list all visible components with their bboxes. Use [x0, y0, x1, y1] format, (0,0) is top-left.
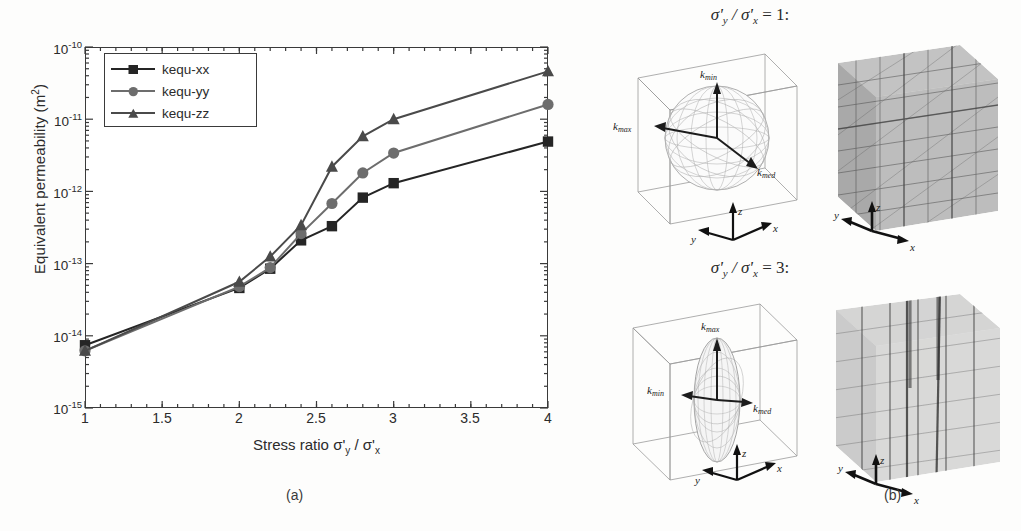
axis-label-x: x [909, 241, 915, 253]
y-tick: 10-13 [36, 255, 82, 273]
x-tick: 1.5 [152, 410, 171, 426]
panel-a-chart: Equivalent permeability (m2) 10-10 10-11… [0, 0, 575, 531]
permeability-ellipsoid-isotropic: kmin kmax kmed z y x [605, 40, 820, 275]
axis-label-y: y [694, 474, 700, 486]
data-point-marker [388, 147, 399, 158]
axis-label-z: z [741, 447, 747, 459]
legend-marker-square-icon [111, 62, 155, 76]
axis-label-z: z [875, 201, 881, 213]
series-line [85, 104, 548, 350]
data-point-marker [295, 219, 307, 230]
legend-marker-circle-icon [111, 84, 155, 98]
axis-label-x: x [772, 222, 778, 234]
permeability-ellipsoid-anisotropic: kmax kmin kmed z y x [605, 292, 820, 527]
figure-root: Equivalent permeability (m2) 10-10 10-11… [0, 0, 1021, 531]
data-point-marker [327, 221, 337, 231]
x-tick: 3 [389, 410, 397, 426]
data-point-marker [265, 262, 276, 273]
chart-legend: kequ-xx kequ-yy kequ-zz [104, 53, 257, 127]
label-kmax: kmax [613, 120, 632, 134]
data-point-marker [542, 99, 553, 110]
label-kmin: kmin [700, 68, 717, 82]
label-kmed: kmed [753, 402, 772, 416]
x-tick: 1 [81, 410, 89, 426]
series-line [85, 142, 548, 346]
label-kmax: kmax [701, 320, 720, 334]
label-kmed: kmed [757, 166, 776, 180]
network-fracture-planes [834, 288, 1002, 504]
y-tick: 10-12 [36, 183, 82, 201]
y-tick: 10-10 [36, 39, 82, 57]
subfigure-caption-a: (a) [286, 487, 303, 503]
y-tick: 10-15 [36, 399, 82, 417]
y-axis-ticks: 10-10 10-11 10-12 10-13 10-14 10-15 [30, 0, 82, 531]
x-axis-ticks: 1 1.5 2 2.5 3 3.5 4 [85, 410, 548, 434]
legend-label: kequ-zz [162, 106, 209, 121]
data-point-marker [543, 136, 553, 146]
x-axis-label: Stress ratio σ'y / σ'x [85, 436, 548, 456]
axis-label-x: x [776, 462, 782, 474]
fracture-network-anisotropic: z y x [810, 288, 1021, 528]
label-kmin: kmin [647, 384, 664, 398]
axis-label-y: y [690, 233, 696, 245]
data-point-marker [357, 130, 369, 141]
x-tick: 2.5 [306, 410, 325, 426]
subfigure-caption-b: (b) [884, 487, 901, 503]
axis-label-z: z [737, 205, 743, 217]
y-tick: 10-14 [36, 327, 82, 345]
x-tick: 4 [544, 410, 552, 426]
data-point-marker [357, 167, 368, 178]
legend-label: kequ-yy [162, 84, 209, 99]
axis-label-x: x [913, 494, 919, 506]
axis-label-y: y [837, 462, 843, 474]
legend-item-kequ-yy: kequ-yy [105, 80, 256, 102]
legend-label: kequ-xx [162, 62, 209, 77]
panel-b-diagrams: σ'y / σ'x = 1: σ'y / σ'x = 3: [575, 0, 1021, 531]
legend-item-kequ-zz: kequ-zz [105, 102, 256, 124]
data-point-marker [388, 178, 398, 188]
x-tick: 3.5 [460, 410, 479, 426]
legend-item-kequ-xx: kequ-xx [105, 58, 256, 80]
data-point-marker [326, 198, 337, 209]
data-point-marker [542, 65, 554, 76]
axis-label-z: z [879, 454, 885, 466]
legend-marker-triangle-icon [111, 106, 155, 120]
x-tick: 2 [235, 410, 243, 426]
stress-ratio-title-1: σ'y / σ'x = 1: [630, 5, 870, 26]
axis-triad-icon: z y x [690, 202, 778, 245]
axis-label-y: y [833, 209, 839, 221]
network-fracture-planes [830, 35, 1006, 249]
y-tick: 10-11 [36, 111, 82, 129]
data-point-marker [358, 192, 368, 202]
fracture-network-isotropic: z y x [810, 35, 1021, 275]
